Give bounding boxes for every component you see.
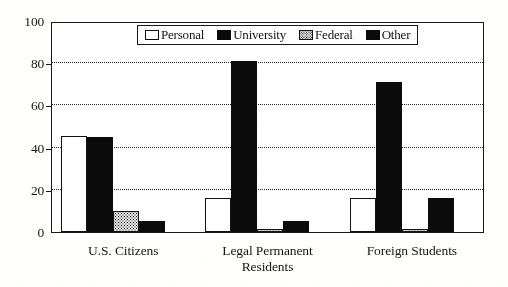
x-axis-group-label-2: Foreign Students [332,243,492,259]
y-tick-label-0: 0 [0,225,44,241]
bar-federal-2 [402,229,428,232]
x-label-line: Residents [188,259,348,275]
y-tick-label-80: 80 [0,56,44,72]
y-tick-label-60: 60 [0,98,44,114]
bar-university-0 [87,137,113,232]
y-tick-label-40: 40 [0,141,44,157]
chart-figure: 020406080100 PersonalUniversityFederalOt… [0,0,508,287]
x-label-line: Foreign Students [332,243,492,259]
y-tick-label-20: 20 [0,183,44,199]
x-label-line: Legal Permanent [188,243,348,259]
legend-label: Other [382,27,411,43]
legend-swatch-other-icon [366,30,380,40]
bar-personal-2 [350,198,376,232]
bar-personal-1 [205,198,231,232]
x-axis-group-label-1: Legal PermanentResidents [188,243,348,275]
bar-university-2 [376,82,402,232]
y-axis: 020406080100 [0,22,46,233]
x-label-line: U.S. Citizens [43,243,203,259]
legend-label: Federal [315,27,353,43]
legend-item-federal: Federal [299,27,353,43]
bar-other-1 [283,221,309,232]
bar-other-2 [428,198,454,232]
bar-personal-0 [61,136,87,232]
x-axis-group-label-0: U.S. Citizens [43,243,203,259]
legend-item-university: University [217,27,286,43]
legend-label: Personal [161,27,204,43]
legend-item-other: Other [366,27,411,43]
legend-label: University [233,27,286,43]
plot-area [51,22,484,233]
legend-swatch-federal-icon [299,30,313,40]
legend-swatch-personal-icon [145,30,159,40]
bar-federal-1 [257,229,283,232]
legend-item-personal: Personal [145,27,204,43]
x-axis: U.S. CitizensLegal PermanentResidentsFor… [51,243,484,287]
bars-layer [52,23,483,232]
bar-university-1 [231,61,257,232]
chart-legend: PersonalUniversityFederalOther [137,25,418,45]
bar-federal-0 [113,211,139,232]
bar-other-0 [139,221,165,232]
y-tick-label-100: 100 [0,14,44,30]
legend-swatch-university-icon [217,30,231,40]
